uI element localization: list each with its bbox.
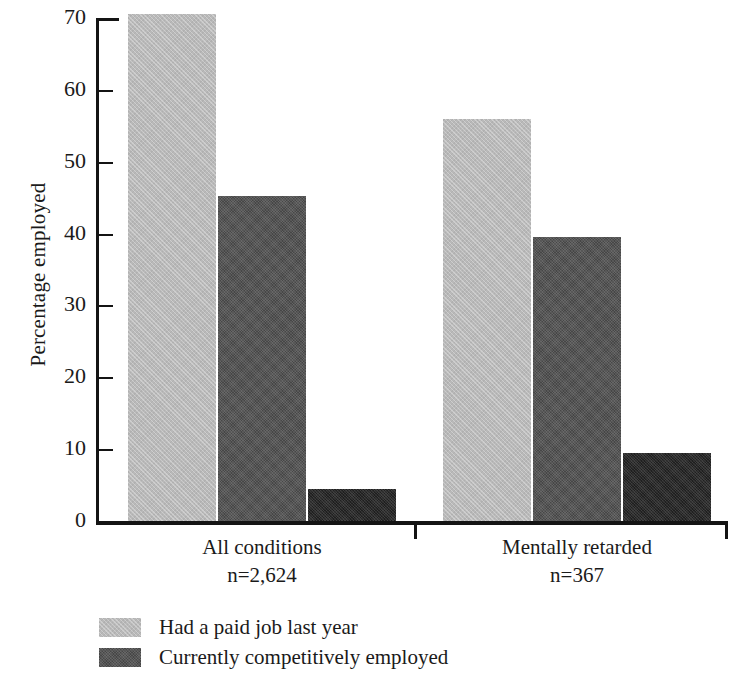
x-axis-line [96,521,728,525]
y-axis-tick-mark [99,18,119,21]
group-name: Mentally retarded [427,534,727,562]
y-axis-tick-label: 30 [64,293,86,315]
x-axis-separator-tick [414,521,417,539]
group-sample-size: n=2,624 [112,562,412,590]
y-axis-tick-label: 10 [64,437,86,459]
bar [443,119,531,521]
bar [308,489,396,521]
y-axis-tick-label: 0 [75,509,86,531]
y-axis-tick-label: 60 [64,78,86,100]
legend-swatch-mid [99,648,141,667]
x-axis-group-label: Mentally retardedn=367 [427,534,727,589]
y-axis-tick-mark [99,449,113,451]
legend-item[interactable]: Had a paid job last year [99,612,699,642]
bar [623,453,711,521]
chart-legend: Had a paid job last yearCurrently compet… [99,612,699,672]
group-sample-size: n=367 [427,562,727,590]
bar-chart-figure: Percentage employed 010203040506070 All … [0,0,747,686]
y-axis-tick-mark [99,234,113,236]
y-axis-tick-mark [99,305,113,307]
y-axis-tick-label: 70 [64,6,86,28]
y-axis-tick-mark [99,90,113,92]
y-axis-line [96,18,99,523]
legend-label: Had a paid job last year [159,617,358,638]
y-axis-title: Percentage employed [26,145,51,405]
y-axis-tick-label: 40 [64,221,86,243]
plot-area: 010203040506070 [96,18,728,523]
y-axis-tick-mark [99,377,113,379]
y-axis-tick-label: 20 [64,365,86,387]
bar [533,237,621,521]
x-axis-group-label: All conditionsn=2,624 [112,534,412,589]
bar [128,14,216,521]
group-name: All conditions [112,534,412,562]
bar [218,196,306,521]
legend-item[interactable]: Currently competitively employed [99,642,699,672]
y-axis-tick-label: 50 [64,149,86,171]
legend-label: Currently competitively employed [159,647,448,668]
y-axis-tick-mark [99,162,113,164]
legend-swatch-light [99,618,141,637]
